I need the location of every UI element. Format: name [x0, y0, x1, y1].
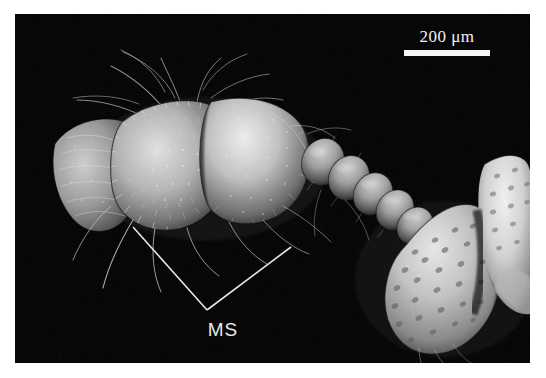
scale-bar: 200 μm [397, 28, 497, 56]
scale-bar-label: 200 μm [397, 28, 497, 46]
sem-micrograph-image: 200 μm MS [15, 14, 530, 363]
specimen-rendering [15, 14, 530, 363]
image-noise-overlay [15, 14, 530, 363]
scale-bar-line [404, 50, 490, 56]
ms-annotation-label: MS [198, 319, 248, 341]
figure-panel: 200 μm MS [0, 0, 546, 378]
